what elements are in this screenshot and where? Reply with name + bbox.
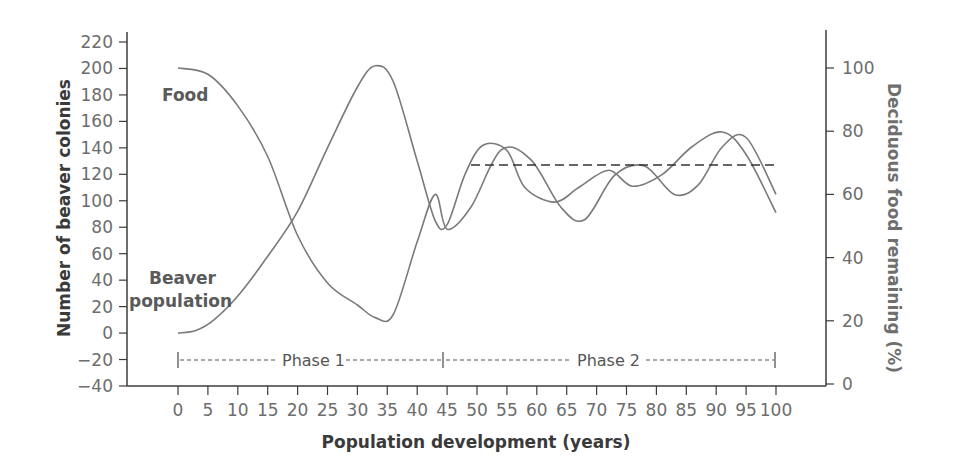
y-tick-label: 80 [91,217,113,237]
y-tick-label: 40 [91,270,113,290]
x-tick-label: 55 [496,400,518,420]
y2-tick-label: 80 [842,121,864,141]
x-tick-label: 30 [347,400,369,420]
x-tick-label: 80 [646,400,668,420]
x-tick-label: 25 [317,400,339,420]
y2-tick-label: 100 [842,58,874,78]
food-line [178,68,776,322]
x-tick-label: 60 [526,400,548,420]
x-tick-label: 20 [287,400,309,420]
x-tick-label: 50 [466,400,488,420]
y2-tick-label: 60 [842,184,864,204]
food-label: Food [162,85,208,105]
x-tick-label: 15 [257,400,279,420]
x-tick-label: 100 [760,400,792,420]
x-tick-label: 95 [735,400,757,420]
x-tick-label: 65 [556,400,578,420]
y-tick-label: 160 [81,111,113,131]
axes [127,30,826,386]
x-tick-label: 0 [173,400,184,420]
y-tick-label: 220 [81,32,113,52]
x-tick-label: 45 [436,400,458,420]
y2-tick-label: 0 [842,374,853,394]
y-tick-label: 200 [81,58,113,78]
curves [178,66,776,334]
beaver-label-line2: population [129,291,232,311]
x-tick-label: 5 [202,400,213,420]
y-tick-label: 0 [102,323,113,343]
y-tick-label: −40 [77,376,113,396]
phase-1-label: Phase 1 [282,351,345,370]
phase-bar: Phase 1 Phase 2 [178,351,775,370]
x-axis-title: Population development (years) [322,432,631,452]
x-tick-label: 35 [376,400,398,420]
y-tick-label: 20 [91,297,113,317]
y-tick-label: 180 [81,85,113,105]
y-tick-label: 140 [81,138,113,158]
y-tick-label: −20 [77,350,113,370]
x-tick-label: 10 [227,400,249,420]
beaver-food-chart: 220200180160140120100806040200−20−400510… [0,0,954,468]
x-tick-label: 75 [616,400,638,420]
y2-tick-label: 40 [842,248,864,268]
x-tick-label: 40 [406,400,428,420]
beaver-label-line1: Beaver [149,268,217,288]
x-tick-label: 90 [705,400,727,420]
phase-2-label: Phase 2 [577,351,640,370]
y2-tick-label: 20 [842,311,864,331]
y-axis-title: Number of beaver colonies [54,79,74,337]
x-tick-label: 70 [586,400,608,420]
y-tick-label: 120 [81,164,113,184]
y2-axis-title: Deciduous food remaining (%) [884,83,904,373]
beaver-population-line [178,66,776,334]
y-tick-label: 100 [81,191,113,211]
y-tick-label: 60 [91,244,113,264]
x-tick-label: 85 [675,400,697,420]
